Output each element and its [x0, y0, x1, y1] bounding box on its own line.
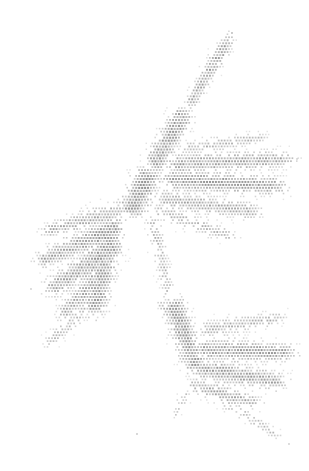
dot-density-canvas: [0, 0, 309, 471]
scatter-plot-root: Dot-density distribution forming a branc…: [0, 0, 309, 471]
